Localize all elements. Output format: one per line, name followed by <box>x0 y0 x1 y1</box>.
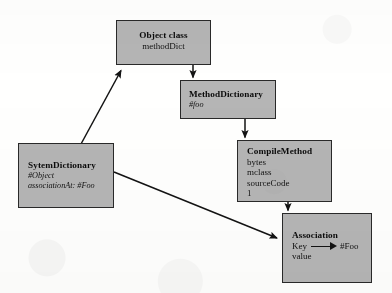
node-method-dictionary-attribute: #foo <box>189 100 275 110</box>
node-compile-method-title: CompileMethod <box>247 146 331 157</box>
node-compile-method-attribute-one: 1 <box>247 188 331 198</box>
node-association-key-row: Key #Foo <box>292 241 371 251</box>
node-compile-method-attribute-sourcecode: sourceCode <box>247 178 331 188</box>
node-sytem-dictionary-title: SytemDictionary <box>28 160 113 171</box>
node-object-class-attribute: methodDict <box>117 41 210 51</box>
node-compile-method[interactable]: CompileMethod bytes mclass sourceCode 1 <box>237 140 332 202</box>
node-sytem-dictionary[interactable]: SytemDictionary #Object associationAt: #… <box>18 143 114 208</box>
node-sytem-dictionary-attribute-object: #Object <box>28 171 113 181</box>
node-method-dictionary-title: MethodDictionary <box>189 89 275 100</box>
node-association-title: Association <box>292 230 371 241</box>
node-association-attribute-value: value <box>292 251 371 261</box>
node-method-dictionary[interactable]: MethodDictionary #foo <box>180 80 276 119</box>
node-association-key-label: Key <box>292 241 307 251</box>
node-object-class[interactable]: Object class methodDict <box>116 20 211 65</box>
node-object-class-title: Object class <box>117 30 210 41</box>
edge-sytem-dictionary-to-object-class <box>81 71 121 145</box>
right-arrow-icon <box>311 242 337 251</box>
node-association-key-value: #Foo <box>340 241 359 251</box>
diagram-canvas: Object class methodDict MethodDictionary… <box>0 0 392 293</box>
node-compile-method-attribute-mclass: mclass <box>247 167 331 177</box>
node-sytem-dictionary-attribute-associationat: associationAt: #Foo <box>28 181 113 191</box>
node-association[interactable]: Association Key #Foo value <box>282 213 372 283</box>
node-compile-method-attribute-bytes: bytes <box>247 157 331 167</box>
